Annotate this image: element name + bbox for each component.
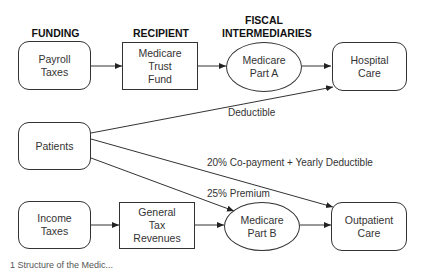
header-recipient: RECIPIENT: [124, 27, 198, 40]
node-medicare-part-a: Medicare Part A: [226, 42, 302, 92]
label-premium: 25% Premium: [207, 188, 270, 199]
node-income-taxes: Income Taxes: [18, 201, 91, 249]
node-payroll-taxes: Payroll Taxes: [18, 41, 91, 90]
figure-caption: 1 Structure of the Medic...: [10, 260, 113, 270]
node-hospital-care: Hospital Care: [332, 42, 407, 91]
label-deductible: Deductible: [228, 107, 275, 118]
label-copayment: 20% Co-payment + Yearly Deductible: [207, 157, 373, 168]
node-medicare-part-b: Medicare Part B: [224, 202, 300, 251]
header-funding: FUNDING: [18, 27, 93, 40]
node-patients: Patients: [18, 122, 91, 170]
node-outpatient-care: Outpatient Care: [331, 202, 407, 251]
header-fiscal-intermediaries: FISCAL INTERMEDIARIES: [222, 14, 306, 40]
node-medicare-trust-fund: Medicare Trust Fund: [122, 42, 198, 90]
arrow-patients-to-hospital: [91, 87, 333, 133]
node-general-tax-revenues: General Tax Revenues: [119, 202, 195, 249]
